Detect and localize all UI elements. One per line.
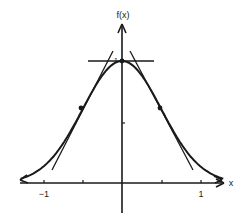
right-inflection-point: [158, 106, 163, 111]
x-axis-label: x: [229, 178, 234, 188]
x-tick-label-pos1: 1: [198, 189, 203, 199]
x-axis: −1 1 x: [20, 178, 234, 199]
x-tick-label-neg1: −1: [39, 189, 49, 199]
maximum-point: [120, 59, 125, 64]
bell-curve-chart: −1 1 x 1 f(x): [0, 0, 244, 223]
y-axis-label: f(x): [117, 10, 130, 20]
left-inflection-point: [79, 106, 84, 111]
